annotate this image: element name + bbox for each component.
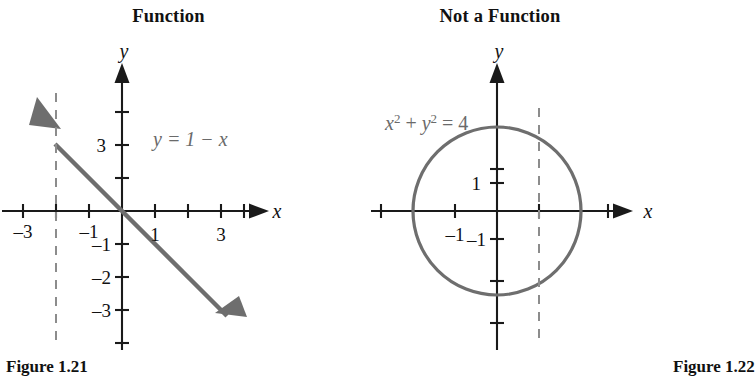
y-axis-label: y — [118, 40, 129, 63]
y-tick-label-1: 1 — [472, 173, 482, 194]
y-axis-arrowhead — [115, 63, 130, 83]
y-tick-label--2: –2 — [91, 267, 111, 288]
x-axis-arrowhead — [613, 204, 633, 219]
plot-not-a-function: –1 1 –1 x y x2 + y2 = 4 — [333, 0, 665, 361]
y-tick-label-3: 3 — [97, 135, 107, 156]
y-tick-label--1: –1 — [91, 234, 111, 255]
plot-function: –3 –1 1 3 3 –1 –2 –3 x y y = 1 − x — [0, 0, 333, 361]
y-tick-label--3: –3 — [91, 300, 111, 321]
x-axis-label: x — [272, 200, 282, 222]
y-axis-label: y — [493, 40, 504, 63]
figure-caption-left: Figure 1.21 — [0, 357, 333, 377]
figure-caption-right: Figure 1.22 — [333, 357, 665, 377]
x-tick-label-1: 1 — [150, 224, 160, 245]
y-axis-arrowhead — [490, 63, 505, 83]
x-tick-label--1: –1 — [445, 224, 465, 245]
equation-label-function: y = 1 − x — [151, 128, 228, 151]
y-tick-label--1: –1 — [466, 229, 486, 250]
equation-label-not-a-function: x2 + y2 = 4 — [384, 111, 468, 135]
x-axis-arrowhead — [249, 204, 269, 219]
x-axis-label: x — [643, 200, 653, 222]
x-tick-label-3: 3 — [216, 224, 226, 245]
panel-not-a-function: Not a Function — [333, 0, 665, 361]
panel-function: Function — [0, 0, 333, 361]
x-tick-label--3: –3 — [13, 221, 33, 242]
